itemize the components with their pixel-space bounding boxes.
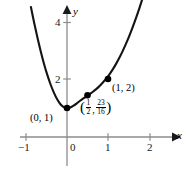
point-label-1-2: (1, 2)	[112, 83, 135, 94]
graph-figure: y x −1 0 1 2 2 4 (0, 1) (1, 2) ( 1 2 , 2…	[0, 0, 186, 172]
fraction-y-denominator: 16	[96, 107, 106, 116]
x-tick-label-neg1: −1	[18, 142, 30, 153]
y-axis-arrow	[63, 5, 72, 14]
y-tick-label-2: 2	[55, 74, 61, 85]
x-tick-label-2: 2	[147, 142, 153, 153]
data-point-0-1	[64, 105, 71, 112]
point-label-0-1: (0, 1)	[30, 113, 53, 124]
fraction-x-half: 1 2	[86, 99, 92, 116]
fraction-close-paren: )	[106, 100, 111, 115]
x-tick-label-1: 1	[105, 142, 111, 153]
x-tick-label-0: 0	[70, 142, 76, 153]
fraction-x-numerator: 1	[86, 99, 92, 107]
fraction-y-23-16: 23 16	[96, 99, 106, 116]
fraction-open-paren: (	[80, 100, 85, 115]
y-axis-label: y	[73, 6, 78, 17]
fraction-y-numerator: 23	[96, 99, 106, 107]
point-label-half-23-16: ( 1 2 , 23 16 )	[80, 99, 111, 116]
y-tick-label-4: 4	[55, 17, 61, 28]
x-axis-label: x	[177, 130, 182, 141]
fraction-comma: ,	[92, 105, 95, 116]
fraction-x-denominator: 2	[86, 107, 92, 116]
data-point-1-2	[105, 76, 112, 83]
